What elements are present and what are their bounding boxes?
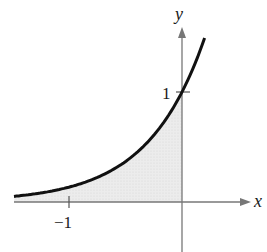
y-axis-label: y: [173, 4, 183, 24]
shaded-area: [14, 92, 182, 202]
x-axis-arrow-icon: [240, 198, 251, 206]
y-axis-arrow-icon: [178, 27, 186, 38]
x-axis-label: x: [253, 191, 262, 211]
x-tick-label-neg1: −1: [54, 213, 72, 232]
chart-canvas: −1 1 x y: [0, 0, 267, 252]
y-tick-label-1: 1: [162, 84, 171, 103]
